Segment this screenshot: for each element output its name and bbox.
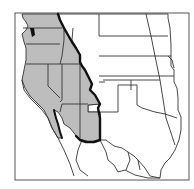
- range-map: [0, 0, 194, 189]
